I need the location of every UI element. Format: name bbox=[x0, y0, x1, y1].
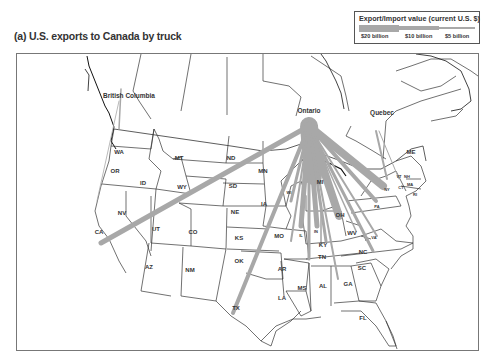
legend-bar-5b bbox=[439, 27, 475, 29]
state-KS: KS bbox=[235, 235, 243, 241]
state-ND: ND bbox=[227, 155, 236, 161]
state-ID: ID bbox=[140, 180, 147, 186]
state-LA: LA bbox=[278, 295, 287, 301]
state-AR: AR bbox=[278, 266, 287, 272]
state-SD: SD bbox=[229, 183, 238, 189]
state-IN: IN bbox=[314, 229, 318, 234]
legend-bar-10b bbox=[399, 26, 439, 30]
state-MS: MS bbox=[298, 285, 307, 291]
state-MN: MN bbox=[258, 168, 267, 174]
state-GA: GA bbox=[344, 281, 354, 287]
state-NH: NH bbox=[404, 174, 410, 179]
flow-lines bbox=[97, 89, 399, 313]
state-MO: MO bbox=[274, 233, 284, 239]
state-WI: WI bbox=[287, 190, 292, 195]
state-TX: TX bbox=[232, 305, 240, 311]
state-IA: IA bbox=[261, 201, 268, 207]
state-WY: WY bbox=[177, 184, 187, 190]
map-frame: British Columbia Ontario Quebec WA OR CA… bbox=[16, 53, 479, 351]
state-VA: VA bbox=[371, 235, 376, 240]
label-ontario: Ontario bbox=[297, 107, 320, 114]
label-british-columbia: British Columbia bbox=[103, 92, 155, 99]
state-OH: OH bbox=[336, 212, 345, 218]
state-KY: KY bbox=[319, 242, 327, 248]
state-NE: NE bbox=[231, 209, 239, 215]
state-FL: FL bbox=[359, 315, 367, 321]
legend-label-10b: $10 billion bbox=[405, 33, 432, 39]
state-TN: TN bbox=[318, 254, 326, 260]
state-CO: CO bbox=[189, 229, 198, 235]
label-quebec: Quebec bbox=[370, 109, 394, 117]
state-MI: MI bbox=[317, 179, 324, 185]
legend-title: Export/Import value (current U.S. $) bbox=[359, 14, 480, 23]
state-NV: NV bbox=[118, 210, 126, 216]
state-NM: NM bbox=[185, 267, 194, 273]
flow-map: British Columbia Ontario Quebec WA OR CA… bbox=[17, 54, 478, 350]
state-AL: AL bbox=[319, 283, 327, 289]
state-RI: RI bbox=[413, 192, 417, 197]
state-CA: CA bbox=[95, 229, 104, 235]
legend: Export/Import value (current U.S. $) $20… bbox=[354, 11, 480, 44]
state-SC: SC bbox=[358, 265, 367, 271]
state-CT: CT bbox=[398, 185, 404, 190]
state-PA: PA bbox=[374, 204, 379, 209]
state-ME: ME bbox=[407, 149, 416, 155]
state-NC: NC bbox=[359, 249, 368, 255]
state-MT: MT bbox=[175, 155, 184, 161]
legend-bar-20b bbox=[359, 25, 399, 32]
state-VT: VT bbox=[396, 174, 402, 179]
state-UT: UT bbox=[152, 226, 160, 232]
legend-label-5b: $5 billion bbox=[445, 33, 469, 39]
state-MA: MA bbox=[407, 182, 413, 187]
state-WV: WV bbox=[347, 230, 357, 236]
state-OK: OK bbox=[235, 258, 245, 264]
figure-title: (a) U.S. exports to Canada by truck bbox=[14, 30, 181, 42]
state-WA: WA bbox=[114, 149, 124, 155]
state-IL: IL bbox=[299, 233, 303, 238]
legend-label-20b: $20 billion bbox=[361, 33, 388, 39]
state-OR: OR bbox=[111, 168, 121, 174]
state-NY: NY bbox=[384, 187, 390, 192]
state-AZ: AZ bbox=[145, 264, 153, 270]
